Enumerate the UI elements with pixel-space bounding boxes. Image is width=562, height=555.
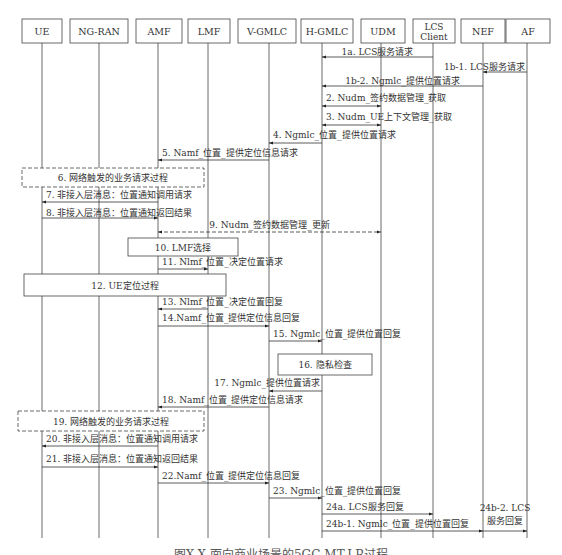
participant-amf: AMF <box>136 19 182 43</box>
svg-text:Client: Client <box>420 32 448 42</box>
message-arrow: 24b-1. Ngmlc_位置_提供位置回复 <box>322 518 483 531</box>
participant-nef: NEF <box>461 19 505 43</box>
message-arrow: 24a. LCS服务回复 <box>322 501 433 514</box>
process-box: 19. 网络触发的业务请求过程 <box>18 411 204 431</box>
svg-text:UDM: UDM <box>370 26 396 37</box>
message-arrow: 8. 非接入层消息：位置通知返回结果 <box>42 207 192 218</box>
participant-ue: UE <box>22 19 62 43</box>
message-arrow: 11. Nlmf_位置_决定位置请求 <box>158 256 283 269</box>
participant-ng-ran: NG-RAN <box>70 19 128 43</box>
message-arrow: 3. Nudm_UE上下文管理_获取 <box>322 111 452 125</box>
svg-text:3. Nudm_UE上下文管理_获取: 3. Nudm_UE上下文管理_获取 <box>326 111 452 123</box>
svg-text:4. Ngmlc_位置_提供位置请求: 4. Ngmlc_位置_提供位置请求 <box>273 129 396 141</box>
message-arrow: 14.Namf_位置_提供定位信息回复 <box>158 312 300 326</box>
svg-text:LCS: LCS <box>424 22 443 32</box>
message-arrow: 22.Namf_位置_提供定位信息回复 <box>158 470 300 483</box>
svg-text:23. Ngmlc_位置_提供位置回复: 23. Ngmlc_位置_提供位置回复 <box>273 485 401 497</box>
svg-text:服务回复: 服务回复 <box>487 515 523 526</box>
message-arrow: 24b-2. LCS服务回复 <box>480 503 531 531</box>
svg-text:1a. LCS服务请求: 1a. LCS服务请求 <box>342 46 414 57</box>
svg-text:16. 隐私检查: 16. 隐私检查 <box>298 359 351 370</box>
svg-text:14.Namf_位置_提供定位信息回复: 14.Namf_位置_提供定位信息回复 <box>162 312 300 324</box>
svg-text:18. Namf_位置_提供定位信息请求: 18. Namf_位置_提供定位信息请求 <box>162 394 303 406</box>
message-arrow: 17. Ngmlc_提供位置请求 <box>214 377 322 391</box>
svg-text:1b-2. Ngmlc_提供位置请求: 1b-2. Ngmlc_提供位置请求 <box>345 75 460 87</box>
message-arrow: 1b-2. Ngmlc_提供位置请求 <box>322 75 483 87</box>
svg-text:15. Ngmlc_位置_提供位置回复: 15. Ngmlc_位置_提供位置回复 <box>273 328 401 340</box>
svg-text:19. 网络触发的业务请求过程: 19. 网络触发的业务请求过程 <box>53 416 169 427</box>
message-arrow: 15. Ngmlc_位置_提供位置回复 <box>269 328 401 341</box>
participant-lcs-client: LCSClient <box>413 19 455 43</box>
svg-text:NG-RAN: NG-RAN <box>78 26 120 37</box>
message-arrow: 4. Ngmlc_位置_提供位置请求 <box>269 129 396 143</box>
svg-text:20. 非接入层消息：位置通知调用请求: 20. 非接入层消息：位置通知调用请求 <box>46 433 198 444</box>
sequence-diagram: UENG-RANAMFLMFV-GMLCH-GMLCUDMLCSClientNE… <box>0 0 562 545</box>
process-box: 10. LMF选择 <box>128 238 238 256</box>
participant-lmf: LMF <box>188 19 230 43</box>
participant-v-gmlc: V-GMLC <box>238 19 296 43</box>
svg-text:24b-2. LCS: 24b-2. LCS <box>480 503 531 513</box>
message-arrow: 18. Namf_位置_提供定位信息请求 <box>158 394 303 407</box>
svg-text:UE: UE <box>35 26 50 37</box>
message-arrow: 1a. LCS服务请求 <box>322 46 433 57</box>
svg-text:2. Nudm_签约数据管理_获取: 2. Nudm_签约数据管理_获取 <box>326 92 446 104</box>
participant-af: AF <box>506 19 550 43</box>
message-arrow: 7. 非接入层消息：位置通知调用请求 <box>42 189 192 202</box>
participant-udm: UDM <box>361 19 405 43</box>
svg-text:9. Nudm_签约数据管理_更新: 9. Nudm_签约数据管理_更新 <box>209 219 329 231</box>
figure-caption: 图X-X 面向商业场景的5GC-MT-LR过程 <box>0 547 562 555</box>
svg-text:24a. LCS服务回复: 24a. LCS服务回复 <box>326 501 404 512</box>
svg-text:AF: AF <box>520 26 535 37</box>
svg-text:8. 非接入层消息：位置通知返回结果: 8. 非接入层消息：位置通知返回结果 <box>46 207 192 218</box>
svg-text:17. Ngmlc_提供位置请求: 17. Ngmlc_提供位置请求 <box>214 377 320 389</box>
message-arrow: 23. Ngmlc_位置_提供位置回复 <box>269 485 401 498</box>
svg-text:LMF: LMF <box>198 26 221 37</box>
message-arrow: 1b-1. LCS服务请求 <box>444 61 527 72</box>
process-box: 6. 网络触发的业务请求过程 <box>22 168 204 187</box>
message-arrow: 2. Nudm_签约数据管理_获取 <box>322 92 446 106</box>
message-arrow: 21. 非接入层消息：位置通知返回结果 <box>42 453 198 467</box>
svg-text:6. 网络触发的业务请求过程: 6. 网络触发的业务请求过程 <box>58 172 168 183</box>
message-arrow: 13. Nlmf_位置_决定位置回复 <box>158 296 283 309</box>
svg-text:NEF: NEF <box>472 26 494 37</box>
participant-h-gmlc: H-GMLC <box>301 19 353 43</box>
svg-text:11. Nlmf_位置_决定位置请求: 11. Nlmf_位置_决定位置请求 <box>162 256 283 268</box>
svg-text:10. LMF选择: 10. LMF选择 <box>155 242 212 253</box>
svg-text:H-GMLC: H-GMLC <box>306 26 348 37</box>
svg-text:13. Nlmf_位置_决定位置回复: 13. Nlmf_位置_决定位置回复 <box>162 296 283 308</box>
process-box: 16. 隐私检查 <box>278 354 372 375</box>
svg-text:1b-1. LCS服务请求: 1b-1. LCS服务请求 <box>444 61 525 72</box>
svg-text:12. UE定位过程: 12. UE定位过程 <box>91 280 158 291</box>
svg-text:V-GMLC: V-GMLC <box>246 26 287 37</box>
message-arrow: 9. Nudm_签约数据管理_更新 <box>158 219 381 232</box>
message-arrow: 5. Namf_位置_提供定位信息请求 <box>158 147 298 160</box>
svg-text:22.Namf_位置_提供定位信息回复: 22.Namf_位置_提供定位信息回复 <box>162 470 300 482</box>
message-arrow: 20. 非接入层消息：位置通知调用请求 <box>42 433 198 446</box>
process-box: 12. UE定位过程 <box>24 274 226 296</box>
svg-text:AMF: AMF <box>146 26 171 37</box>
svg-text:21. 非接入层消息：位置通知返回结果: 21. 非接入层消息：位置通知返回结果 <box>46 453 198 464</box>
svg-text:5. Namf_位置_提供定位信息请求: 5. Namf_位置_提供定位信息请求 <box>162 147 298 159</box>
svg-text:24b-1. Ngmlc_位置_提供位置回复: 24b-1. Ngmlc_位置_提供位置回复 <box>326 518 469 530</box>
svg-text:7. 非接入层消息：位置通知调用请求: 7. 非接入层消息：位置通知调用请求 <box>46 189 192 200</box>
